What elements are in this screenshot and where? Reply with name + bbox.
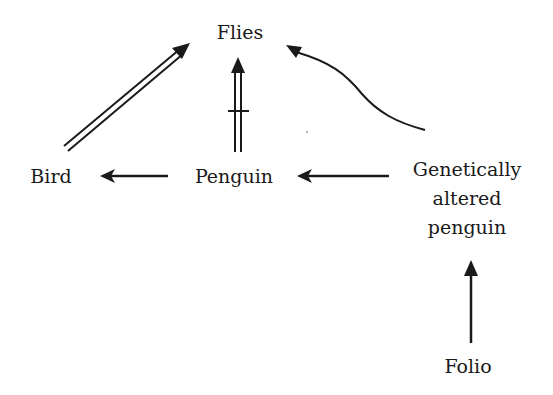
edge-gap-flies-curved-arrow (286, 45, 425, 130)
node-genetically-altered-penguin-line2: altered (433, 187, 502, 209)
edge-penguin-bird-arrow (100, 169, 168, 183)
node-genetically-altered-penguin-line3: penguin (428, 216, 506, 238)
edge-gap-penguin-arrow (297, 169, 389, 183)
node-genetically-altered-penguin-line1: Genetically (413, 158, 522, 180)
inheritance-diagram: Flies Bird Penguin Genetically altered p… (0, 0, 553, 395)
node-folio: Folio (444, 355, 491, 377)
node-penguin: Penguin (195, 165, 273, 187)
speck (306, 131, 308, 133)
node-bird: Bird (30, 165, 71, 187)
edge-folio-gap-arrow (464, 260, 478, 343)
edge-penguin-flies-crossed-double-arrow (228, 57, 249, 152)
node-flies: Flies (217, 21, 263, 43)
edge-bird-flies-double-arrow (64, 43, 190, 151)
